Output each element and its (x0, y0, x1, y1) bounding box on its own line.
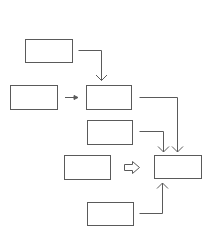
arrowhead-icon (74, 96, 78, 100)
connector-box3-to-box6 (140, 98, 184, 153)
box-3[interactable] (87, 86, 132, 110)
box-1[interactable] (26, 40, 73, 63)
flow-diagram (0, 0, 207, 238)
box-2[interactable] (11, 86, 58, 110)
connector-box5-to-box6 (125, 162, 140, 174)
connector-box2-to-box3 (65, 96, 78, 100)
box-7[interactable] (88, 203, 134, 226)
box-4[interactable] (88, 121, 133, 145)
connector-box7-to-box6 (140, 183, 169, 214)
hollow-arrow-icon (125, 162, 140, 174)
connector-box1-to-box3 (79, 51, 108, 81)
connector-box4-to-box6 (140, 132, 170, 153)
box-5[interactable] (65, 156, 111, 180)
box-6[interactable] (155, 156, 202, 179)
